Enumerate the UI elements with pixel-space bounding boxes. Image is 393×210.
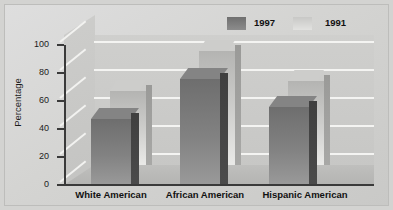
bar-front-face [180,79,220,185]
chart-frame: 0 20 40 60 80 100 Percentage White Ameri… [4,4,389,206]
bar-1997-white-american [91,5,131,185]
y-tick-label-40: 40 [23,124,49,133]
bar-side-face [131,113,139,185]
y-tick-40 [57,128,64,130]
legend-swatch-1991 [293,17,312,30]
chart-screenshot: 0 20 40 60 80 100 Percentage White Ameri… [0,0,393,210]
y-tick-label-0: 0 [23,180,49,189]
bar-side-face [146,85,152,165]
x-axis-line [64,184,374,186]
chart-legend: 1997 1991 [5,5,390,25]
bar-side-face [324,75,330,165]
y-tick-label-20: 20 [23,152,49,161]
x-tick-label-african-american: African American [157,189,253,200]
y-tick-0 [57,184,64,186]
y-tick-80 [57,72,64,74]
y-tick-label-60: 60 [23,96,49,105]
y-tick-label-100: 100 [23,40,49,49]
bar-side-face [235,45,241,165]
bar-front-face [91,119,131,185]
bar-side-face [220,73,228,185]
bar-side-face [309,101,317,185]
bar-1997-hispanic-american [269,5,309,185]
y-axis-label: Percentage [12,67,23,139]
y-tick-60 [57,100,64,102]
y-axis-line [64,45,66,185]
legend-label-1997: 1997 [254,17,275,28]
x-tick-label-white-american: White American [65,189,157,200]
y-tick-label-80: 80 [23,68,49,77]
y-tick-20 [57,156,64,158]
x-tick-label-hispanic-american: Hispanic American [253,189,357,200]
y-tick-100 [57,44,64,46]
legend-label-1991: 1991 [325,17,346,28]
legend-swatch-1997 [227,17,246,30]
bar-front-face [269,107,309,185]
bar-1997-african-american [180,5,220,185]
